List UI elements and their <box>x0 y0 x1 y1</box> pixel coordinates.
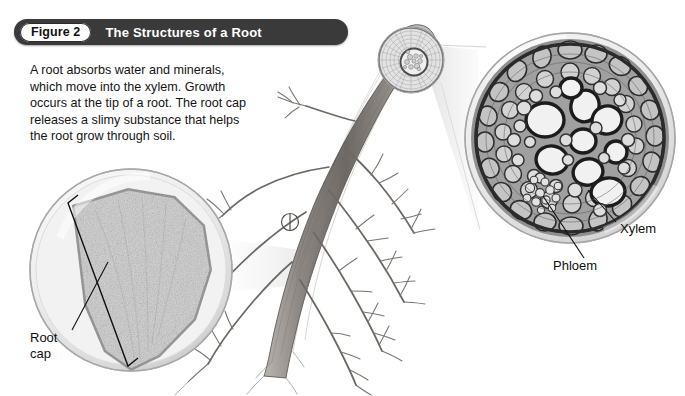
figure-title: The Structures of a Root <box>105 25 261 40</box>
figure-number-label: Figure 2 <box>31 25 80 39</box>
inset-root-tip-micrograph <box>30 169 232 380</box>
figure-artwork <box>0 0 685 396</box>
inset-root-cross-section-small <box>378 27 444 93</box>
inset-vascular-cylinder-micrograph <box>465 33 675 243</box>
label-root-cap: Root cap <box>30 330 57 362</box>
figure-caption: A root absorbs water and minerals, which… <box>30 62 248 145</box>
figure-number-pill: Figure 2 <box>20 23 91 42</box>
label-phloem: Phloem <box>553 258 597 274</box>
figure-banner: Figure 2 The Structures of a Root <box>14 19 348 45</box>
figure-root-structures: Figure 2 The Structures of a Root A root… <box>0 0 685 396</box>
root-hair-marker <box>282 214 299 232</box>
label-xylem: Xylem <box>620 221 656 237</box>
